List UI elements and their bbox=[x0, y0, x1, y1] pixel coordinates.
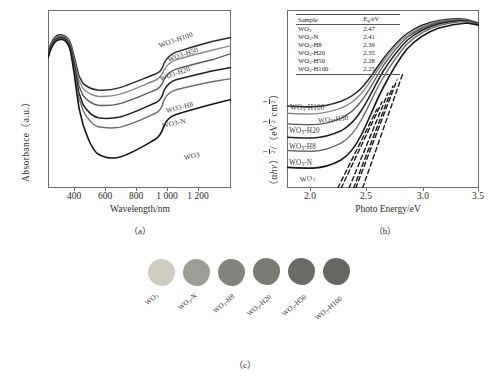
table-row: WO3 2.47 bbox=[296, 24, 400, 33]
panel-b-curve-label-wo3-n: WO3-N bbox=[289, 159, 312, 167]
sample-photo-wo3-h8 bbox=[218, 259, 245, 286]
panel-b-xtick-3.0: 3.0 bbox=[409, 191, 437, 201]
panel-b-xtick-3.5: 3.5 bbox=[464, 191, 490, 201]
panel-b-caption: （b） bbox=[365, 224, 405, 237]
table-cell-sample: WO3-N bbox=[296, 33, 353, 41]
sample-label-wo3-h50: WO3-H50 bbox=[280, 293, 308, 318]
table-cell-eg: 2.41 bbox=[353, 33, 400, 41]
panel-a-xtick-800: 800 bbox=[122, 191, 150, 201]
panel-a-xtick-400: 400 bbox=[60, 191, 88, 201]
table-cell-eg: 2.28 bbox=[353, 57, 400, 65]
panel-a-xtick-1000: 1 000 bbox=[150, 191, 184, 201]
table-row: WO3-N 2.41 bbox=[296, 33, 400, 41]
table-cell-eg: 2.25 bbox=[353, 65, 400, 75]
sample-label-wo3: WO3 bbox=[143, 292, 159, 308]
panel-c-caption: （c） bbox=[225, 358, 265, 371]
sample-photo-wo3-h100 bbox=[323, 258, 350, 285]
panel-a-y-axis-label: Absorbance（a.u.） bbox=[18, 97, 32, 183]
table-row: WO3-H100 2.25 bbox=[296, 65, 400, 75]
table-cell-sample: WO3-H50 bbox=[296, 57, 353, 65]
sample-label-wo3-n: WO3-N bbox=[176, 292, 198, 312]
panel-a-xtick-1200: 1 200 bbox=[181, 191, 215, 201]
sample-photo-wo3-h50 bbox=[288, 258, 315, 285]
table-row: WO3-H50 2.28 bbox=[296, 57, 400, 65]
table-cell-eg: 2.47 bbox=[353, 24, 400, 33]
table-cell-eg: 2.35 bbox=[353, 49, 400, 57]
sample-label-wo3-h20: WO3-H20 bbox=[245, 293, 273, 318]
table-cell-sample: WO3-H100 bbox=[296, 65, 353, 75]
sample-photo-wo3-h20 bbox=[253, 258, 280, 285]
sample-photo-wo3-n bbox=[183, 259, 210, 286]
panel-b-curve-label-wo3-h100: WO3-H100 bbox=[290, 104, 325, 112]
table-row: WO3-H8 2.39 bbox=[296, 41, 400, 49]
panel-b-xtick-2.5: 2.5 bbox=[352, 191, 380, 201]
sample-label-wo3-h100: WO3-H100 bbox=[313, 295, 343, 322]
panel-b-x-axis-label: Photo Energy/eV bbox=[323, 204, 453, 214]
panel-b-bandgap-table: Sample Eg/eV WO3 2.47 WO3-N 2.41 WO3-H8 … bbox=[296, 14, 400, 75]
panel-b-y-axis-label: （αhν）12/（eV12 cm12） bbox=[262, 89, 280, 190]
panel-a-caption: （a） bbox=[120, 224, 160, 237]
panel-a-curves bbox=[48, 10, 231, 188]
panel-a-x-axis-label: Wavelength/nm bbox=[80, 204, 200, 214]
table-header-eg: Eg/eV bbox=[353, 15, 400, 25]
sample-label-wo3-h8: WO3-H8 bbox=[211, 292, 236, 315]
table-header-sample: Sample bbox=[296, 15, 353, 25]
panel-b-curve-label-wo3-h8: WO3-H8 bbox=[289, 143, 316, 151]
sample-photo-wo3 bbox=[148, 259, 175, 286]
panel-b-xtick-2.0: 2.0 bbox=[296, 191, 324, 201]
table-cell-eg: 2.39 bbox=[353, 41, 400, 49]
table-cell-sample: WO3-H20 bbox=[296, 49, 353, 57]
panel-a-xtick-600: 600 bbox=[91, 191, 119, 201]
table-cell-sample: WO3 bbox=[296, 24, 353, 33]
table-cell-sample: WO3-H8 bbox=[296, 41, 353, 49]
figure-root: Absorbance（a.u.） WO3-H100 WO3-H50 WO bbox=[0, 0, 490, 382]
table-row: WO3-H20 2.35 bbox=[296, 49, 400, 57]
panel-b-curve-label-wo3-h20: WO3-H20 bbox=[289, 127, 320, 135]
